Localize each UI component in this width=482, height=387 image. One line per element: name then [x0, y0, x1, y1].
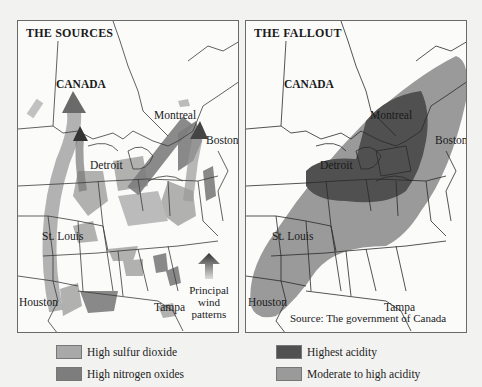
label-detroit: Detroit	[90, 159, 123, 171]
fallout-title: THE FALLOUT	[254, 26, 342, 41]
sources-map-panel: THE SOURCES CANADA Montreal Boston Detro…	[17, 20, 239, 333]
legend-label: High sulfur dioxide	[87, 346, 177, 358]
legend-item-highest: Highest acidity	[276, 343, 420, 361]
up-arrow-icon	[198, 253, 220, 279]
sources-legend: High sulfur dioxide High nitrogen oxides	[56, 343, 184, 387]
label-montreal: Montreal	[154, 109, 196, 121]
legend-label: Highest acidity	[307, 346, 377, 358]
moderate-acidity-swatch	[276, 367, 302, 381]
label-canada: CANADA	[284, 78, 334, 90]
legend-item-sulfur: High sulfur dioxide	[56, 343, 184, 361]
fallout-map-panel: THE FALLOUT CANADA Montreal Boston Detro…	[245, 20, 467, 333]
source-credit: Source: The government of Canada	[290, 312, 446, 324]
label-boston: Boston	[435, 134, 467, 146]
label-montreal: Montreal	[370, 109, 412, 121]
wind-legend-line1: Principal	[184, 284, 234, 296]
label-canada: CANADA	[56, 78, 106, 90]
nitrogen-oxides-swatch	[56, 367, 82, 381]
sulfur-dioxide-swatch	[56, 345, 82, 359]
wind-legend-line3: patterns	[184, 308, 234, 320]
legend-item-nitrogen: High nitrogen oxides	[56, 365, 184, 383]
sources-title: THE SOURCES	[26, 26, 113, 41]
legend-label: High nitrogen oxides	[87, 368, 184, 380]
fallout-map	[246, 21, 467, 333]
legend-item-moderate: Moderate to high acidity	[276, 365, 420, 383]
label-houston: Houston	[19, 296, 58, 308]
label-tampa: Tampa	[154, 301, 185, 313]
label-st-louis: St. Louis	[272, 230, 314, 242]
wind-legend-line2: wind	[184, 296, 234, 308]
fallout-legend: Highest acidity Moderate to high acidity	[276, 343, 420, 387]
label-boston: Boston	[206, 134, 239, 146]
highest-acidity-swatch	[276, 345, 302, 359]
wind-legend: Principal wind patterns	[184, 253, 234, 320]
label-detroit: Detroit	[320, 159, 353, 171]
label-st-louis: St. Louis	[42, 230, 84, 242]
legend-label: Moderate to high acidity	[307, 368, 420, 380]
label-houston: Houston	[248, 296, 287, 308]
